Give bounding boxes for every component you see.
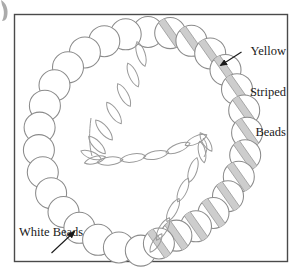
label-line-2: Striped — [250, 86, 286, 100]
page-edge-smudge-icon — [1, 0, 8, 21]
label-line-1: White Beads — [19, 226, 83, 240]
figure-root: Yellow Striped Beads White Beads — [0, 0, 302, 276]
label-line-3: Beads — [250, 126, 286, 140]
white-beads-label: White Beads — [19, 199, 83, 267]
label-line-1: Yellow — [250, 45, 286, 59]
striped-bead — [143, 227, 174, 261]
yellow-striped-beads-label: Yellow Striped Beads — [250, 18, 286, 167]
